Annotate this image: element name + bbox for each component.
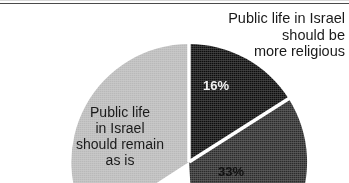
pie-chart-figure: 16% 33% Public life in Israel should be … <box>0 0 349 183</box>
slice-value-less-religious: 33% <box>218 164 244 179</box>
top-hairline-rule <box>0 0 349 1</box>
slice-value-more-religious: 16% <box>203 78 229 93</box>
top-divider-rule <box>0 3 349 4</box>
callout-label-more-religious: Public life in Israel should be more rel… <box>155 10 345 60</box>
callout-label-remain-as-is: Public life in Israel should remain as i… <box>60 104 180 168</box>
